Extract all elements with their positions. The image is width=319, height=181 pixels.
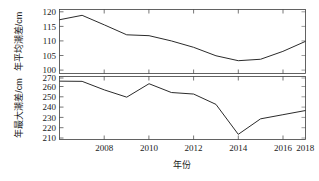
xtick-label-2: 2012 [185,143,203,153]
xtick-label-1: 2010 [140,143,159,153]
top-panel-x-ticks [104,10,283,74]
xtick-label-4: 2016 [274,143,293,153]
bottom-panel-y-axis-title: 年最大潮差/cm [13,78,24,138]
top-ytick-label-2: 110 [43,36,57,46]
tidal-range-figure: 100 105 110 115 120 年平均潮差/cm [0,0,319,181]
x-axis-tick-labels: 2008 2010 2012 2014 2016 2018 [95,143,315,153]
top-ytick-label-4: 120 [43,7,57,17]
bottom-panel-data-line [60,81,305,134]
bottom-ytick-label-2: 230 [43,113,57,123]
xtick-label-5: 2018 [296,143,315,153]
top-panel: 100 105 110 115 120 年平均潮差/cm [13,7,306,75]
x-axis-title: 年份 [173,159,191,170]
bottom-panel-frame [60,77,306,140]
bottom-ytick-label-3: 240 [43,102,57,112]
top-panel-y-ticks [60,12,306,70]
top-ytick-label-3: 115 [43,22,57,32]
bottom-panel: 210 220 230 240 250 260 270 年最大潮差/cm [13,73,306,143]
top-panel-frame [60,10,306,74]
top-panel-data-line [60,15,305,60]
xtick-label-3: 2014 [229,143,248,153]
top-ytick-label-1: 105 [43,51,57,61]
bottom-ytick-label-0: 210 [43,133,57,143]
chart-canvas: 100 105 110 115 120 年平均潮差/cm [0,0,319,181]
bottom-ytick-label-4: 250 [43,92,57,102]
bottom-panel-x-ticks [104,77,283,140]
bottom-ytick-label-1: 220 [43,123,57,133]
top-panel-y-axis-title: 年平均潮差/cm [13,12,24,72]
xtick-label-0: 2008 [95,143,114,153]
bottom-ytick-label-6: 270 [43,73,57,83]
